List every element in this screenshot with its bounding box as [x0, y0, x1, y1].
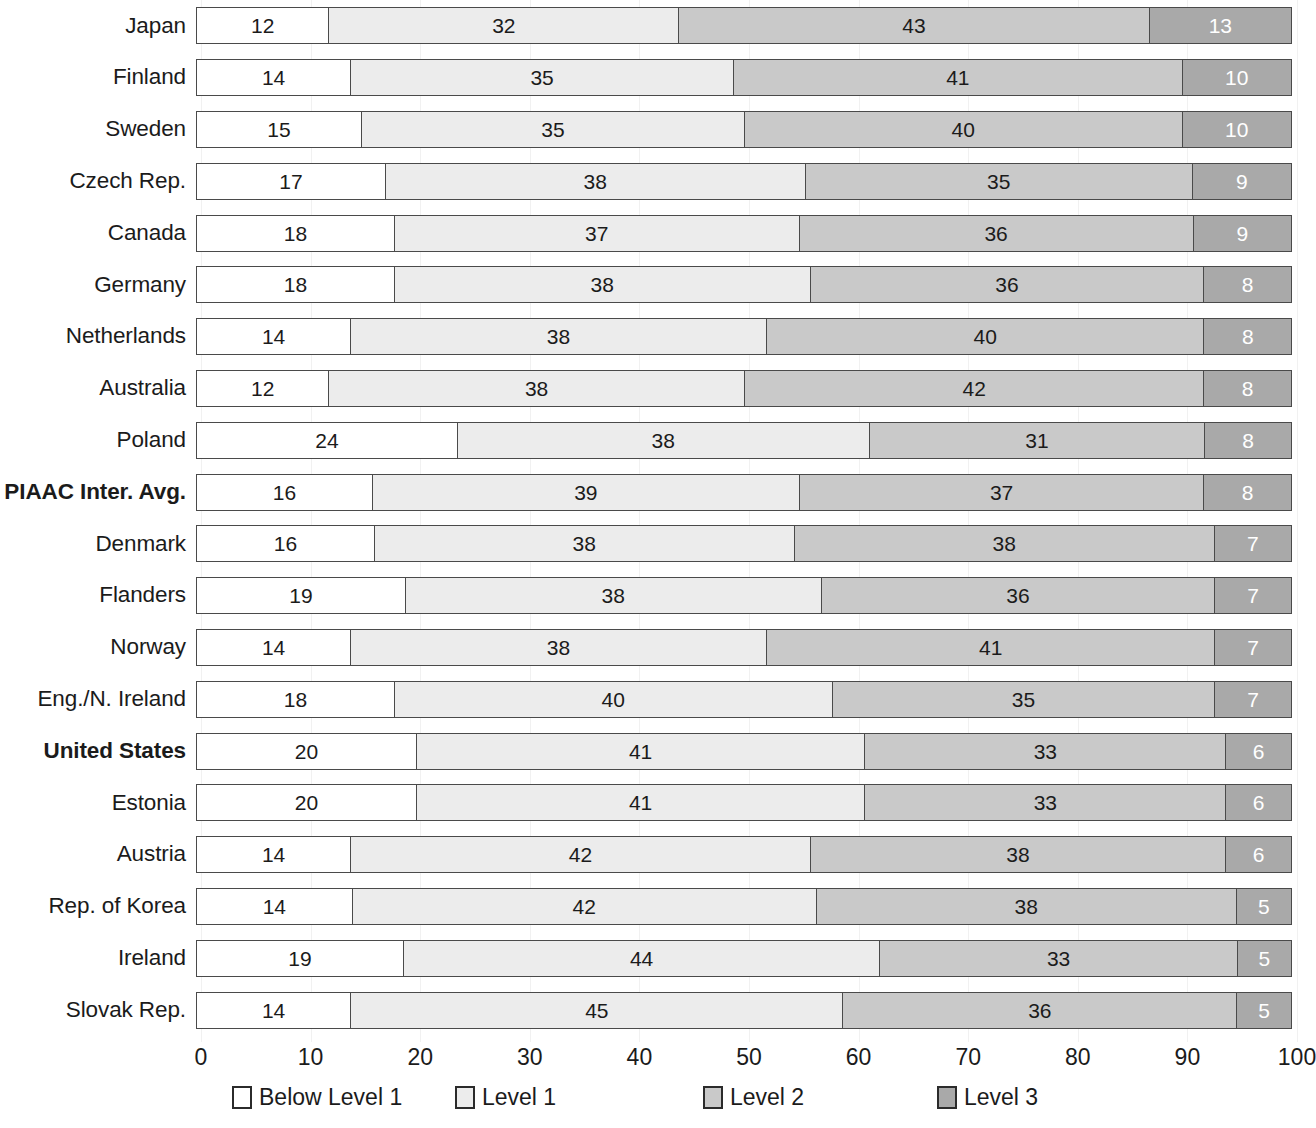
bar-segment[interactable]: 35	[805, 164, 1192, 199]
legend-item[interactable]: Level 3	[937, 1086, 1038, 1109]
bar-segment[interactable]: 45	[350, 993, 842, 1028]
bar-segment[interactable]: 37	[394, 216, 799, 251]
bar-segment[interactable]: 38	[374, 526, 794, 561]
bar-segment[interactable]: 36	[821, 578, 1215, 613]
legend-item[interactable]: Level 1	[455, 1086, 556, 1109]
bar-segment[interactable]: 35	[350, 60, 733, 95]
bar-segment[interactable]: 16	[197, 475, 372, 510]
bar-segment[interactable]: 18	[197, 682, 394, 717]
bar-segment[interactable]: 14	[197, 630, 350, 665]
stacked-bar[interactable]: 1442386	[196, 836, 1292, 873]
stacked-bar[interactable]: 1438408	[196, 318, 1292, 355]
bar-segment[interactable]: 33	[879, 941, 1236, 976]
bar-segment[interactable]: 41	[766, 630, 1215, 665]
bar-segment[interactable]: 24	[197, 423, 457, 458]
bar-segment[interactable]: 12	[197, 8, 328, 43]
legend-item[interactable]: Below Level 1	[232, 1086, 402, 1109]
bar-segment[interactable]: 14	[197, 319, 350, 354]
bar-segment[interactable]: 33	[864, 785, 1225, 820]
bar-segment[interactable]: 38	[794, 526, 1214, 561]
stacked-bar[interactable]: 14354110	[196, 59, 1292, 96]
bar-segment[interactable]: 40	[766, 319, 1204, 354]
bar-segment[interactable]: 36	[799, 216, 1193, 251]
bar-segment[interactable]: 14	[197, 889, 352, 924]
bar-segment[interactable]: 19	[197, 578, 405, 613]
bar-segment[interactable]: 7	[1214, 526, 1291, 561]
legend-item[interactable]: Level 2	[703, 1086, 804, 1109]
bar-segment[interactable]: 20	[197, 734, 416, 769]
bar-segment[interactable]: 14	[197, 837, 350, 872]
bar-segment[interactable]: 38	[810, 837, 1226, 872]
bar-segment[interactable]: 6	[1225, 837, 1291, 872]
bar-segment[interactable]: 38	[328, 371, 744, 406]
bar-segment[interactable]: 31	[869, 423, 1205, 458]
bar-segment[interactable]: 43	[678, 8, 1148, 43]
bar-segment[interactable]: 36	[810, 267, 1204, 302]
bar-segment[interactable]: 41	[733, 60, 1182, 95]
stacked-bar[interactable]: 1638387	[196, 525, 1292, 562]
bar-segment[interactable]: 13	[1149, 8, 1291, 43]
stacked-bar[interactable]: 1840357	[196, 681, 1292, 718]
stacked-bar[interactable]: 2041336	[196, 733, 1292, 770]
bar-segment[interactable]: 41	[416, 734, 865, 769]
bar-segment[interactable]: 5	[1236, 889, 1291, 924]
bar-segment[interactable]: 7	[1214, 578, 1291, 613]
stacked-bar[interactable]: 1238428	[196, 370, 1292, 407]
bar-segment[interactable]: 12	[197, 371, 328, 406]
bar-segment[interactable]: 40	[744, 112, 1182, 147]
bar-segment[interactable]: 6	[1225, 734, 1291, 769]
bar-segment[interactable]: 42	[744, 371, 1203, 406]
bar-segment[interactable]: 38	[350, 630, 766, 665]
bar-segment[interactable]: 37	[799, 475, 1204, 510]
bar-segment[interactable]: 38	[405, 578, 821, 613]
bar-segment[interactable]: 8	[1203, 267, 1291, 302]
bar-segment[interactable]: 36	[842, 993, 1236, 1028]
stacked-bar[interactable]: 2041336	[196, 784, 1292, 821]
bar-segment[interactable]: 42	[350, 837, 809, 872]
stacked-bar[interactable]: 1438417	[196, 629, 1292, 666]
bar-segment[interactable]: 19	[197, 941, 403, 976]
stacked-bar[interactable]: 1944335	[196, 940, 1292, 977]
stacked-bar[interactable]: 15354010	[196, 111, 1292, 148]
bar-segment[interactable]: 14	[197, 60, 350, 95]
bar-segment[interactable]: 5	[1236, 993, 1291, 1028]
bar-segment[interactable]: 38	[394, 267, 810, 302]
bar-segment[interactable]: 35	[361, 112, 744, 147]
bar-segment[interactable]: 39	[372, 475, 799, 510]
bar-segment[interactable]: 38	[457, 423, 869, 458]
bar-segment[interactable]: 32	[328, 8, 678, 43]
bar-segment[interactable]: 40	[394, 682, 832, 717]
bar-segment[interactable]: 38	[350, 319, 766, 354]
stacked-bar[interactable]: 1445365	[196, 992, 1292, 1029]
bar-segment[interactable]: 38	[385, 164, 805, 199]
stacked-bar[interactable]: 2438318	[196, 422, 1292, 459]
bar-segment[interactable]: 14	[197, 993, 350, 1028]
bar-segment[interactable]: 35	[832, 682, 1215, 717]
bar-segment[interactable]: 8	[1204, 423, 1291, 458]
bar-segment[interactable]: 8	[1203, 475, 1291, 510]
bar-segment[interactable]: 18	[197, 216, 394, 251]
bar-segment[interactable]: 8	[1203, 319, 1291, 354]
bar-segment[interactable]: 42	[352, 889, 816, 924]
bar-segment[interactable]: 7	[1214, 630, 1291, 665]
bar-segment[interactable]: 10	[1182, 60, 1291, 95]
bar-segment[interactable]: 33	[864, 734, 1225, 769]
bar-segment[interactable]: 44	[403, 941, 880, 976]
bar-segment[interactable]: 10	[1182, 112, 1291, 147]
bar-segment[interactable]: 20	[197, 785, 416, 820]
bar-segment[interactable]: 41	[416, 785, 865, 820]
bar-segment[interactable]: 5	[1237, 941, 1291, 976]
bar-segment[interactable]: 9	[1193, 216, 1291, 251]
stacked-bar[interactable]: 12324313	[196, 7, 1292, 44]
bar-segment[interactable]: 17	[197, 164, 385, 199]
stacked-bar[interactable]: 1442385	[196, 888, 1292, 925]
stacked-bar[interactable]: 1639378	[196, 474, 1292, 511]
bar-segment[interactable]: 8	[1203, 371, 1291, 406]
stacked-bar[interactable]: 1938367	[196, 577, 1292, 614]
bar-segment[interactable]: 38	[816, 889, 1236, 924]
stacked-bar[interactable]: 1837369	[196, 215, 1292, 252]
bar-segment[interactable]: 7	[1214, 682, 1291, 717]
bar-segment[interactable]: 6	[1225, 785, 1291, 820]
stacked-bar[interactable]: 1838368	[196, 266, 1292, 303]
bar-segment[interactable]: 16	[197, 526, 374, 561]
